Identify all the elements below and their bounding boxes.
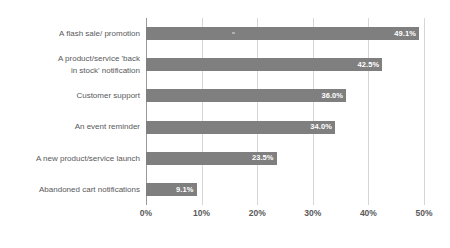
bar: 23.5%: [146, 152, 277, 165]
bar: 36.0%: [146, 89, 346, 102]
category-label: An event reminder: [0, 121, 140, 133]
plot-area: 49.1%42.5%36.0%34.0%23.5%9.1%: [146, 18, 424, 205]
bar-value-label: 36.0%: [321, 92, 346, 100]
x-axis-tick-labels: 0%10%20%30%40%50%: [146, 208, 424, 228]
bar-row: 34.0%: [146, 112, 424, 143]
bar: 49.1%: [146, 27, 419, 40]
bar-value-label: 34.0%: [310, 123, 335, 131]
bar-row: 23.5%: [146, 143, 424, 174]
bar-row: 36.0%: [146, 80, 424, 111]
category-axis-labels: A flash sale/ promotion A product/servic…: [0, 18, 140, 205]
category-label: Customer support: [0, 90, 140, 102]
x-tick-label: 0%: [140, 208, 152, 218]
bar-chart: A flash sale/ promotion A product/servic…: [0, 0, 450, 248]
bar-value-label: 49.1%: [394, 30, 419, 38]
bar-row: 42.5%: [146, 49, 424, 80]
bar-value-label: 9.1%: [176, 186, 197, 194]
bar-row: 49.1%: [146, 18, 424, 49]
bar-value-label: 42.5%: [358, 61, 383, 69]
category-label: A product/service 'back in stock' notifi…: [0, 53, 140, 76]
bar: 34.0%: [146, 121, 335, 134]
category-label: A new product/service launch: [0, 153, 140, 165]
x-tick-label: 50%: [415, 208, 432, 218]
x-tick-label: 30%: [304, 208, 321, 218]
x-tick-label: 40%: [360, 208, 377, 218]
bar-row: 9.1%: [146, 174, 424, 205]
x-tick-label: 20%: [249, 208, 266, 218]
scan-artifact: [232, 32, 235, 34]
category-label: Abandoned cart notifications: [0, 184, 140, 196]
bar: 42.5%: [146, 58, 382, 71]
bar-value-label: 23.5%: [252, 154, 277, 162]
x-tick-label: 10%: [193, 208, 210, 218]
gridline: [424, 18, 425, 205]
category-label: A flash sale/ promotion: [0, 28, 140, 40]
bars-layer: 49.1%42.5%36.0%34.0%23.5%9.1%: [146, 18, 424, 205]
bar: 9.1%: [146, 183, 197, 196]
